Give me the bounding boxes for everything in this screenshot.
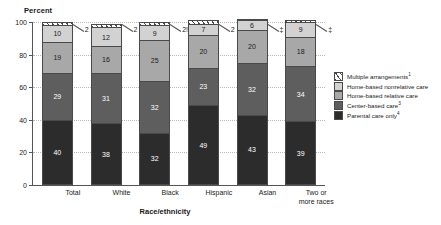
x-axis-title: Race/ethnicity: [0, 207, 330, 216]
legend-item[interactable]: Home-based relative care: [334, 91, 428, 101]
segment-value-label: 32: [151, 155, 159, 162]
y-tick-mark: [29, 87, 33, 88]
y-axis-line: [32, 22, 33, 185]
gridline: [33, 87, 325, 88]
bar-segment[interactable]: 9: [139, 25, 170, 40]
callout-leader-line: [219, 24, 231, 32]
x-category-label: Two ormore races: [286, 188, 346, 206]
bar-segment[interactable]: 49: [188, 105, 219, 185]
y-axis-title: Percent: [24, 6, 52, 15]
segment-value-label: 25: [151, 57, 159, 64]
bar-segment[interactable]: 25: [139, 40, 170, 81]
bar-segment[interactable]: 32: [139, 133, 170, 185]
y-tick-mark: [29, 120, 33, 121]
segment-value-label: 34: [297, 91, 305, 98]
legend-label: Center-based care3: [347, 102, 401, 109]
legend-swatch: [334, 101, 343, 110]
bar-segment[interactable]: [139, 22, 170, 25]
segment-value-label: 9: [153, 30, 157, 37]
bar-segment[interactable]: [188, 20, 219, 23]
callout-leader-line: [170, 24, 182, 32]
bar-segment[interactable]: 39: [285, 121, 316, 185]
stacked-bar[interactable]: 4923207: [188, 22, 219, 185]
legend-label: Home-based nonrelative care: [347, 83, 428, 90]
bar-segment[interactable]: 18: [285, 37, 316, 66]
stacked-bar[interactable]: 4332206: [237, 22, 268, 185]
bar-segment[interactable]: 43: [237, 115, 268, 185]
stacked-bar[interactable]: 38311612: [91, 22, 122, 185]
callout-leader-line: [267, 24, 279, 32]
stacked-bar[interactable]: 40291910: [42, 22, 73, 185]
bar-segment[interactable]: [91, 24, 122, 27]
segment-value-label: 16: [102, 56, 110, 63]
bar-segment[interactable]: 6: [237, 20, 268, 30]
bar-segment[interactable]: 20: [237, 30, 268, 63]
stacked-bar[interactable]: 3934189: [285, 22, 316, 185]
bar-segment[interactable]: 16: [91, 46, 122, 72]
legend-label: Parental care only4: [347, 112, 399, 119]
legend-label: Home-based relative care: [347, 92, 418, 99]
hatch-pattern: [92, 25, 121, 27]
segment-value-label: 49: [199, 142, 207, 149]
bar-segment[interactable]: 29: [42, 73, 73, 120]
callout-value: 2: [231, 26, 235, 33]
bar-segment[interactable]: [42, 22, 73, 25]
y-tick-mark: [29, 22, 33, 23]
callout-leader-line: [73, 24, 85, 32]
bar-segment[interactable]: [237, 19, 268, 21]
callout-value: 2!: [182, 26, 188, 33]
callout-value: 2: [134, 26, 138, 33]
bar-segment[interactable]: 19: [42, 42, 73, 73]
bar-segment[interactable]: [285, 20, 316, 22]
segment-value-label: 9: [299, 26, 303, 33]
bar-segment[interactable]: 34: [285, 66, 316, 121]
segment-value-label: 23: [199, 83, 207, 90]
y-tick-label: 100: [15, 19, 27, 26]
segment-value-label: 10: [53, 30, 61, 37]
bar-segment[interactable]: 32: [237, 63, 268, 115]
gridline: [33, 120, 325, 121]
bar-segment[interactable]: 23: [188, 68, 219, 105]
legend-swatch: [334, 82, 343, 91]
y-tick-label: 60: [19, 84, 27, 91]
bar-segment[interactable]: 31: [91, 73, 122, 124]
segment-value-label: 31: [102, 95, 110, 102]
bar-segment[interactable]: 12: [91, 27, 122, 47]
legend-swatch: [334, 91, 343, 100]
legend-item[interactable]: Home-based nonrelative care: [334, 82, 428, 92]
bar-segment[interactable]: 32: [139, 81, 170, 133]
hatch-pattern: [238, 20, 267, 21]
segment-value-label: 12: [102, 34, 110, 41]
segment-value-label: 40: [53, 149, 61, 156]
bar-segment[interactable]: 10: [42, 25, 73, 41]
segment-value-label: 6: [250, 22, 254, 29]
bar-segment[interactable]: 9: [285, 22, 316, 37]
legend-item[interactable]: Multiple arrangements1: [334, 72, 428, 82]
callout-value: 2: [85, 26, 89, 33]
x-axis-line: [32, 185, 325, 186]
segment-value-label: 32: [151, 104, 159, 111]
bar-segment[interactable]: 38: [91, 123, 122, 185]
hatch-pattern: [286, 21, 315, 22]
y-tick-mark: [29, 55, 33, 56]
bar-segment[interactable]: 40: [42, 120, 73, 185]
hatch-pattern: [335, 73, 342, 80]
segment-value-label: 43: [248, 146, 256, 153]
segment-value-label: 38: [102, 151, 110, 158]
segment-value-label: 19: [53, 54, 61, 61]
segment-value-label: 20: [248, 43, 256, 50]
segment-value-label: 39: [297, 150, 305, 157]
y-tick-mark: [29, 185, 33, 186]
segment-value-label: 7: [201, 26, 205, 33]
plot-area: 020406080100 402919103831161232322594923…: [33, 22, 325, 185]
y-tick-label: 0: [23, 182, 27, 189]
gridline: [33, 55, 325, 56]
callout-leader-line: [121, 24, 133, 32]
bar-segment[interactable]: 20: [188, 35, 219, 68]
chart-figure: Percent 020406080100 4029191038311612323…: [0, 0, 441, 225]
legend-item[interactable]: Parental care only4: [334, 110, 428, 120]
stacked-bar[interactable]: 3232259: [139, 22, 170, 185]
bar-segment[interactable]: 7: [188, 24, 219, 35]
legend-item[interactable]: Center-based care3: [334, 101, 428, 111]
gridline: [33, 22, 325, 23]
